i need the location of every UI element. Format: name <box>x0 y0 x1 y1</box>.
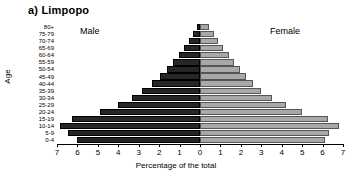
x-axis-tick-mark <box>200 144 201 147</box>
y-axis-tick-label: 60-64 <box>6 52 54 58</box>
x-axis-tick-mark <box>180 144 181 147</box>
x-axis-tick-label: 1 <box>172 148 188 157</box>
bar-female <box>200 52 229 58</box>
x-axis-tick-label: 5 <box>90 148 106 157</box>
y-axis-tick-label: 80+ <box>6 24 54 30</box>
bar-female <box>200 38 218 44</box>
population-pyramid-chart: a) Limpopo Age 0-45-910-1415-1920-2425-2… <box>0 0 352 179</box>
plot-area <box>57 24 343 144</box>
series-label-male: Male <box>80 26 100 36</box>
pyramid-row <box>57 73 343 79</box>
x-axis-tick-label: 3 <box>131 148 147 157</box>
x-axis-tick-label: 6 <box>315 148 331 157</box>
x-axis-tick-label: 3 <box>253 148 269 157</box>
x-axis-tick-label: 4 <box>110 148 126 157</box>
x-axis-tick-mark <box>159 144 160 147</box>
x-axis-tick-mark <box>220 144 221 147</box>
y-axis-tick-label: 20-24 <box>6 109 54 115</box>
bar-female <box>200 102 286 108</box>
pyramid-row <box>57 31 343 37</box>
bar-male <box>179 52 200 58</box>
x-axis-tick-mark <box>261 144 262 147</box>
y-axis-tick-label: 5-9 <box>6 130 54 136</box>
bar-male <box>142 88 200 94</box>
bar-male <box>193 31 200 37</box>
y-axis-tick-label: 15-19 <box>6 116 54 122</box>
bar-male <box>152 80 200 86</box>
bar-female <box>200 73 246 79</box>
bar-female <box>200 31 214 37</box>
bar-male <box>118 102 200 108</box>
series-label-female: Female <box>270 26 300 36</box>
pyramid-row <box>57 88 343 94</box>
pyramid-row <box>57 123 343 129</box>
x-axis-tick-mark <box>302 144 303 147</box>
y-axis-tick-label: 50-54 <box>6 66 54 72</box>
bar-female <box>200 109 302 115</box>
bar-male <box>100 109 200 115</box>
x-axis-tick-label: 0 <box>192 148 208 157</box>
pyramid-row <box>57 24 343 30</box>
y-axis-tick-label: 10-14 <box>6 123 54 129</box>
bar-female <box>200 116 328 122</box>
pyramid-row <box>57 137 343 143</box>
bar-female <box>200 59 234 65</box>
bar-female <box>200 66 240 72</box>
chart-title: a) Limpopo <box>28 4 89 16</box>
bar-male <box>184 45 200 51</box>
bar-female <box>200 123 339 129</box>
x-axis-tick-label: 2 <box>151 148 167 157</box>
y-axis-tick-label: 0-4 <box>6 137 54 143</box>
x-axis-tick-mark <box>57 144 58 147</box>
pyramid-row <box>57 52 343 58</box>
bar-male <box>77 137 200 143</box>
bar-male <box>173 59 200 65</box>
x-axis-tick-mark <box>241 144 242 147</box>
bar-female <box>200 137 325 143</box>
bar-female <box>200 80 253 86</box>
x-axis-tick-mark <box>118 144 119 147</box>
pyramid-row <box>57 130 343 136</box>
bar-female <box>200 24 209 30</box>
bar-male <box>160 73 200 79</box>
x-axis-tick-mark <box>139 144 140 147</box>
x-axis-tick-mark <box>77 144 78 147</box>
pyramid-row <box>57 116 343 122</box>
y-axis-tick-label: 45-49 <box>6 74 54 80</box>
y-axis-tick-label: 75-79 <box>6 31 54 37</box>
bar-male <box>60 123 200 129</box>
pyramid-row <box>57 59 343 65</box>
x-axis-tick-label: 2 <box>233 148 249 157</box>
pyramid-row <box>57 109 343 115</box>
x-axis-tick-label: 7 <box>49 148 65 157</box>
x-axis-tick-mark <box>323 144 324 147</box>
x-axis-tick-mark <box>98 144 99 147</box>
y-axis-tick-label: 70-74 <box>6 38 54 44</box>
pyramid-row <box>57 102 343 108</box>
x-axis-tick-label: 1 <box>212 148 228 157</box>
x-axis-tick-label: 5 <box>294 148 310 157</box>
bar-female <box>200 88 261 94</box>
y-axis-tick-label: 30-34 <box>6 95 54 101</box>
bar-female <box>200 95 272 101</box>
y-axis-tick-labels: 0-45-910-1415-1920-2425-2930-3435-3940-4… <box>0 24 54 144</box>
pyramid-row <box>57 95 343 101</box>
bar-female <box>200 130 329 136</box>
bar-female <box>200 45 223 51</box>
x-axis-title: Percentage of the total <box>0 161 352 170</box>
bar-male <box>189 38 200 44</box>
x-axis-tick-label: 6 <box>69 148 85 157</box>
bar-male <box>68 130 200 136</box>
bar-male <box>132 95 200 101</box>
y-axis-tick-label: 40-44 <box>6 81 54 87</box>
pyramid-row <box>57 80 343 86</box>
y-axis-tick-label: 65-69 <box>6 45 54 51</box>
pyramid-row <box>57 66 343 72</box>
bar-male <box>72 116 200 122</box>
x-axis-tick-label: 7 <box>335 148 351 157</box>
pyramid-row <box>57 38 343 44</box>
y-axis-tick-label: 35-39 <box>6 88 54 94</box>
y-axis-tick-label: 55-59 <box>6 59 54 65</box>
pyramid-row <box>57 45 343 51</box>
x-axis-tick-mark <box>282 144 283 147</box>
